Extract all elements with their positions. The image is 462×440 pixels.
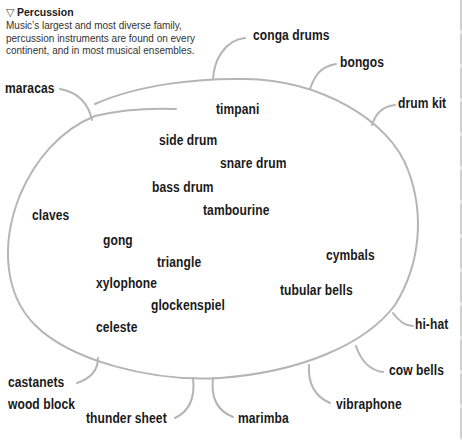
label-conga-drums: conga drums [253, 27, 330, 43]
label-side-drum: side drum [159, 132, 217, 148]
label-bass-drum: bass drum [152, 179, 214, 195]
label-marimba: marimba [238, 410, 289, 426]
label-gong: gong [103, 232, 133, 248]
label-glockenspiel: glockenspiel [151, 297, 225, 313]
label-xylophone: xylophone [96, 275, 157, 291]
connector-conga-drums [213, 38, 245, 79]
label-cow-bells: cow bells [389, 362, 444, 378]
label-cymbals: cymbals [326, 247, 375, 263]
label-snare-drum: snare drum [220, 155, 286, 171]
label-triangle: triangle [157, 254, 201, 270]
label-tambourine: tambourine [203, 202, 269, 218]
ellipse-outline [8, 79, 418, 379]
label-drum-kit: drum kit [398, 95, 446, 111]
label-claves: claves [32, 207, 69, 223]
label-tubular-bells: tubular bells [280, 282, 353, 298]
connector-castanets [77, 358, 98, 383]
label-vibraphone: vibraphone [336, 396, 402, 412]
connector-marimba [213, 378, 233, 417]
label-timpani: timpani [216, 101, 259, 117]
label-maracas: maracas [5, 80, 54, 96]
connector-bongos [310, 64, 336, 89]
label-wood-block: wood block [8, 396, 75, 412]
connector-vibraphone [309, 365, 330, 403]
connector-thunder-sheet [175, 378, 194, 418]
label-hi-hat: hi-hat [415, 316, 448, 332]
label-castanets: castanets [8, 374, 64, 390]
connector-drum-kit [372, 105, 395, 125]
label-celeste: celeste [96, 319, 137, 335]
connector-cow-bells [356, 346, 383, 372]
label-thunder-sheet: thunder sheet [86, 410, 167, 426]
connector-hi-hat [393, 313, 413, 326]
connector-maracas [60, 89, 92, 120]
label-bongos: bongos [340, 54, 384, 70]
